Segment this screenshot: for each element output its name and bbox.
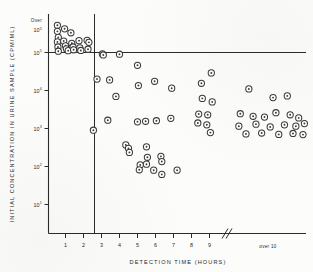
data-point-center-dot: [56, 41, 58, 43]
y-axis-overflow-label: Over 105: [31, 18, 42, 33]
data-point: [54, 28, 60, 34]
data-point-center-dot: [57, 36, 59, 38]
data-point: [168, 115, 174, 121]
data-point-center-dot: [146, 163, 148, 165]
data-point: [143, 161, 149, 167]
data-point-center-dot: [56, 30, 58, 32]
data-point-center-dot: [137, 64, 139, 66]
svg-text:6: 6: [154, 242, 157, 248]
data-point: [153, 118, 159, 124]
data-point: [55, 48, 61, 54]
data-point: [90, 127, 96, 133]
data-point: [94, 76, 100, 82]
svg-text:103: 103: [33, 125, 42, 131]
data-point: [209, 99, 215, 105]
data-point: [207, 130, 213, 136]
data-point-center-dot: [209, 132, 211, 134]
data-point-center-dot: [238, 125, 240, 127]
figure-panel: 101 102 103 104 105 Over 105 1 2 3 4 5 6…: [0, 0, 313, 272]
data-point: [270, 95, 276, 101]
data-point: [144, 154, 150, 160]
data-point: [159, 158, 165, 164]
data-point-center-dot: [73, 49, 75, 51]
svg-text:1: 1: [64, 242, 67, 248]
data-point: [261, 114, 267, 120]
data-point: [243, 131, 249, 137]
data-point: [76, 38, 82, 44]
data-point: [107, 77, 113, 83]
data-point: [116, 51, 122, 57]
svg-text:104: 104: [33, 87, 42, 93]
svg-text:5: 5: [136, 242, 139, 248]
data-point-center-dot: [160, 155, 162, 157]
data-point-center-dot: [80, 50, 82, 52]
data-point-center-dot: [210, 72, 212, 74]
svg-text:Over: Over: [31, 18, 42, 23]
data-point: [259, 130, 265, 136]
data-point-center-dot: [137, 85, 139, 87]
data-point-center-dot: [56, 24, 58, 26]
data-point: [135, 82, 141, 88]
data-point-center-dot: [88, 41, 90, 43]
data-point-center-dot: [298, 117, 300, 119]
data-point-center-dot: [289, 114, 291, 116]
data-point-center-dot: [206, 124, 208, 126]
data-point: [246, 86, 252, 92]
data-point-center-dot: [275, 112, 277, 114]
data-point: [284, 93, 290, 99]
x-axis-ticks: [66, 234, 210, 239]
data-point: [169, 85, 175, 91]
x-axis-title: DETECTION TIME (HOURS): [130, 259, 227, 265]
data-point: [250, 113, 256, 119]
data-point-center-dot: [269, 126, 271, 128]
data-point-center-dot: [155, 120, 157, 122]
data-point-center-dot: [201, 97, 203, 99]
data-point: [134, 62, 140, 68]
data-point-center-dot: [137, 121, 139, 123]
data-point: [253, 121, 259, 127]
data-point-center-dot: [272, 97, 274, 99]
data-point-center-dot: [161, 161, 163, 163]
data-point-center-dot: [161, 173, 163, 175]
data-point-center-dot: [92, 129, 94, 131]
data-point: [293, 123, 299, 129]
data-point: [300, 132, 306, 138]
data-point-center-dot: [198, 113, 200, 115]
data-point: [78, 47, 84, 53]
data-point-center-dot: [170, 117, 172, 119]
data-point-center-dot: [115, 95, 117, 97]
data-point-center-dot: [171, 87, 173, 89]
data-point-center-dot: [139, 164, 141, 166]
data-point-center-dot: [239, 113, 241, 115]
data-point-center-dot: [153, 169, 155, 171]
data-point-center-dot: [292, 133, 294, 135]
svg-text:4: 4: [118, 242, 121, 248]
data-point: [113, 93, 119, 99]
data-point-center-dot: [154, 80, 156, 82]
data-point-center-dot: [248, 88, 250, 90]
data-point: [273, 110, 279, 116]
data-point: [126, 149, 132, 155]
data-point: [143, 144, 149, 150]
data-point-center-dot: [261, 132, 263, 134]
data-point-center-dot: [264, 116, 266, 118]
data-point-center-dot: [302, 134, 304, 136]
data-point-group: [54, 22, 307, 177]
data-point-center-dot: [78, 40, 80, 42]
data-point: [296, 115, 302, 121]
data-point-center-dot: [211, 101, 213, 103]
svg-text:3: 3: [100, 242, 103, 248]
data-point-center-dot: [286, 95, 288, 97]
data-point: [236, 123, 242, 129]
data-point: [86, 39, 92, 45]
data-point: [174, 167, 180, 173]
svg-text:7: 7: [172, 242, 175, 248]
data-point-center-dot: [245, 133, 247, 135]
y-axis-title: INITIAL CONCENTRATION IN URINE SAMPLE (C…: [9, 26, 15, 223]
data-point: [301, 120, 307, 126]
data-point-center-dot: [109, 79, 111, 81]
svg-text:105: 105: [33, 49, 42, 55]
x-axis-overflow-label: over 10: [259, 244, 277, 249]
data-point: [276, 131, 282, 137]
data-point: [198, 80, 204, 86]
